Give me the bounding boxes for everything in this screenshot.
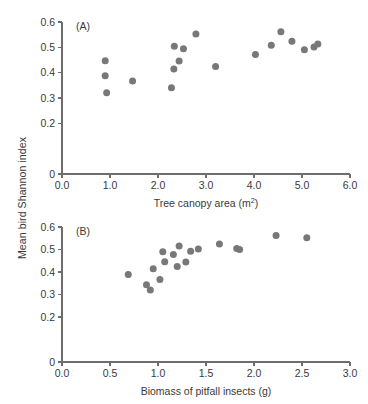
data-point [176,58,183,65]
data-point [102,72,109,79]
data-point [129,78,136,85]
data-point [161,258,168,265]
data-point [212,63,219,70]
data-point [156,276,163,283]
data-point [301,46,308,53]
x-tick-label: 1.5 [199,367,214,379]
x-tick-label: 5.0 [295,179,310,191]
y-tick-label: 0.2 [40,117,55,129]
data-point [174,263,181,270]
data-point [195,246,202,253]
x-tick-label: 0.0 [55,367,70,379]
data-point [125,271,132,278]
x-tick-label: 3.0 [199,179,214,191]
x-tick-label: 1.0 [103,179,118,191]
data-point [176,242,183,249]
x-axis-title: Biomass of pitfall insects (g) [141,385,272,397]
data-point [303,234,310,241]
data-point [273,232,280,239]
data-point [147,287,154,294]
y-tick-label: 0.6 [40,221,55,233]
data-point [277,28,284,35]
y-tick-label: 0.6 [40,16,55,28]
panel-tag: (A) [76,20,90,32]
panel-a: 00.20.30.40.50.60.01.02.03.04.05.06.0(A)… [0,0,368,210]
data-point [102,57,109,64]
y-tick-label: 0.3 [40,288,55,300]
data-point [216,240,223,247]
data-point [103,89,110,96]
x-tick-label: 3.0 [343,367,358,379]
y-tick-label: 0.3 [40,92,55,104]
y-tick-label: 0.2 [40,311,55,323]
data-point [170,66,177,73]
y-tick-label: 0.5 [40,243,55,255]
data-point [170,251,177,258]
data-point [168,84,175,91]
data-point [182,259,189,266]
x-tick-label: 2.0 [247,367,262,379]
x-tick-label: 2.5 [295,367,310,379]
panel-b: 00.20.30.40.50.60.00.51.01.52.02.53.0(B)… [0,205,368,404]
panel-b-plot: 00.20.30.40.50.60.00.51.01.52.02.53.0(B)… [0,205,368,404]
data-point [236,246,243,253]
y-tick-label: 0.5 [40,41,55,53]
data-point [288,38,295,45]
data-point [252,51,259,58]
data-point [159,248,166,255]
x-tick-label: 4.0 [247,179,262,191]
x-tick-label: 0.0 [55,179,70,191]
x-tick-label: 2.0 [151,179,166,191]
x-tick-label: 1.0 [151,367,166,379]
panel-tag: (B) [76,225,90,237]
y-tick-label: 0.4 [40,266,55,278]
data-point [171,43,178,50]
data-point [192,30,199,37]
y-tick-label: 0 [49,168,55,180]
data-point [314,41,321,48]
y-tick-label: 0.4 [40,66,55,78]
y-tick-label: 0 [49,356,55,368]
data-point [268,42,275,49]
x-tick-label: 6.0 [343,179,358,191]
data-point [180,45,187,52]
panel-a-plot: 00.20.30.40.50.60.01.02.03.04.05.06.0(A)… [0,0,368,210]
x-tick-label: 0.5 [103,367,118,379]
data-point [150,265,157,272]
data-point [187,248,194,255]
figure-container: Mean bird Shannon index 00.20.30.40.50.6… [0,0,368,404]
